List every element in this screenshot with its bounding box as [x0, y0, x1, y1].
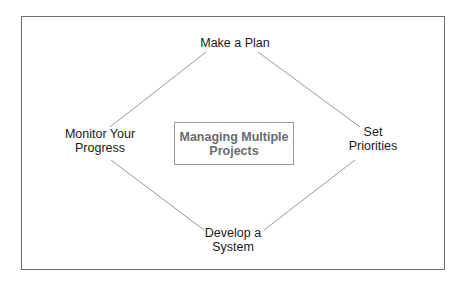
connector-top-left: [110, 52, 206, 127]
node-label: Monitor Your: [50, 127, 150, 141]
node-label: Develop a: [188, 226, 278, 240]
node-label: Make a Plan: [194, 36, 276, 50]
node-make-a-plan: Make a Plan: [194, 36, 276, 50]
connector-right-bottom: [264, 160, 355, 230]
node-develop-a-system: Develop a System: [188, 226, 278, 254]
node-monitor-your-progress: Monitor Your Progress: [50, 127, 150, 155]
center-topic-label: Managing Multiple: [175, 130, 293, 144]
connector-top-right: [258, 52, 360, 127]
center-topic-box: Managing Multiple Projects: [174, 122, 294, 165]
node-label: Set: [328, 125, 418, 139]
connector-left-bottom: [111, 160, 204, 230]
center-topic-label: Projects: [175, 144, 293, 158]
node-label: System: [188, 240, 278, 254]
node-label: Progress: [50, 141, 150, 155]
node-label: Priorities: [328, 139, 418, 153]
node-set-priorities: Set Priorities: [328, 125, 418, 153]
